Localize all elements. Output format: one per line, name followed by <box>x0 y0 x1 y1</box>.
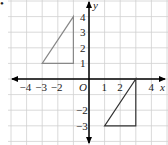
x-tick-label: −2 <box>51 82 63 93</box>
y-tick-label: −2 <box>76 105 88 116</box>
y-tick-label: 2 <box>80 43 86 54</box>
y-axis-label: y <box>93 0 98 11</box>
x-tick-label: 2 <box>117 82 123 93</box>
y-axis-up-arrow-icon <box>86 1 92 8</box>
y-tick-label: 3 <box>80 27 86 38</box>
x-tick-label: 4 <box>148 82 154 93</box>
y-tick-label: −3 <box>76 121 88 132</box>
x-axis-left-arrow-icon <box>11 76 18 82</box>
y-tick-label: 1 <box>80 58 86 69</box>
x-tick-label: −3 <box>35 82 47 93</box>
x-tick-label: 1 <box>102 82 108 93</box>
x-tick-label: −4 <box>20 82 32 93</box>
origin-label: O <box>79 82 87 93</box>
y-tick-label: 4 <box>80 12 86 23</box>
x-axis-label: x <box>160 82 165 93</box>
y-axis-down-arrow-icon <box>86 137 92 144</box>
